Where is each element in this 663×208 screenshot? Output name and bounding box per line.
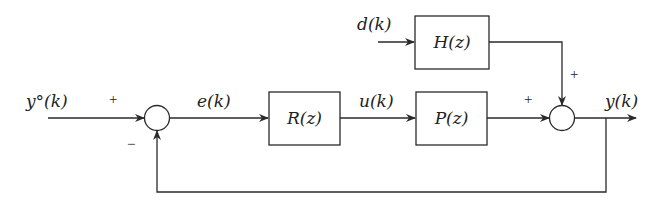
diagram-canvas: y°(k) + − e(k) R(z) u(k) P(z) + d(k) H(z… bbox=[0, 0, 663, 208]
feedback-arrow bbox=[157, 118, 606, 192]
output-label: y(k) bbox=[604, 91, 638, 111]
sum1-plus-sign: + bbox=[109, 91, 117, 107]
plant-label: P(z) bbox=[434, 108, 469, 128]
block-diagram: y°(k) + − e(k) R(z) u(k) P(z) + d(k) H(z… bbox=[0, 0, 663, 208]
sum1-minus-sign: − bbox=[127, 136, 135, 152]
sum2-plus-sign-left: + bbox=[524, 91, 532, 107]
control-label: u(k) bbox=[359, 91, 394, 111]
sum2-plus-sign-top: + bbox=[570, 66, 578, 82]
controller-label: R(z) bbox=[286, 108, 322, 128]
disturbance-label: d(k) bbox=[357, 14, 391, 34]
error-label: e(k) bbox=[197, 91, 231, 111]
summing-junction-2 bbox=[550, 106, 575, 131]
disturbance-filter-label: H(z) bbox=[432, 32, 470, 52]
summing-junction-1 bbox=[145, 106, 170, 131]
reference-label: y°(k) bbox=[25, 91, 68, 111]
